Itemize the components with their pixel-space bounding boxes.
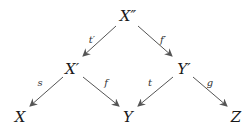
node-x-double-prime: X″ [120, 9, 136, 24]
arrow-Xpp-to-Yp [138, 26, 172, 56]
diagram-canvas: X″ X′ Y′ X Y Z t′ f′ s f t g [0, 0, 252, 131]
node-y: Y [123, 110, 133, 125]
node-x-prime: X′ [65, 62, 79, 77]
edge-label-t: t [148, 78, 152, 88]
edge-label-t-prime: t′ [89, 35, 95, 45]
arrow-Yp-to-Y [138, 77, 173, 106]
arrow-Xp-to-Y [83, 77, 119, 106]
edge-label-f: f [104, 78, 108, 88]
edge-label-f-prime: f′ [160, 35, 166, 45]
node-z: Z [231, 110, 241, 125]
arrow-Xp-to-X [30, 77, 63, 106]
node-x: X [15, 110, 26, 125]
edge-label-s: s [37, 78, 42, 88]
edge-label-g: g [207, 78, 213, 88]
node-y-prime: Y′ [177, 62, 190, 77]
